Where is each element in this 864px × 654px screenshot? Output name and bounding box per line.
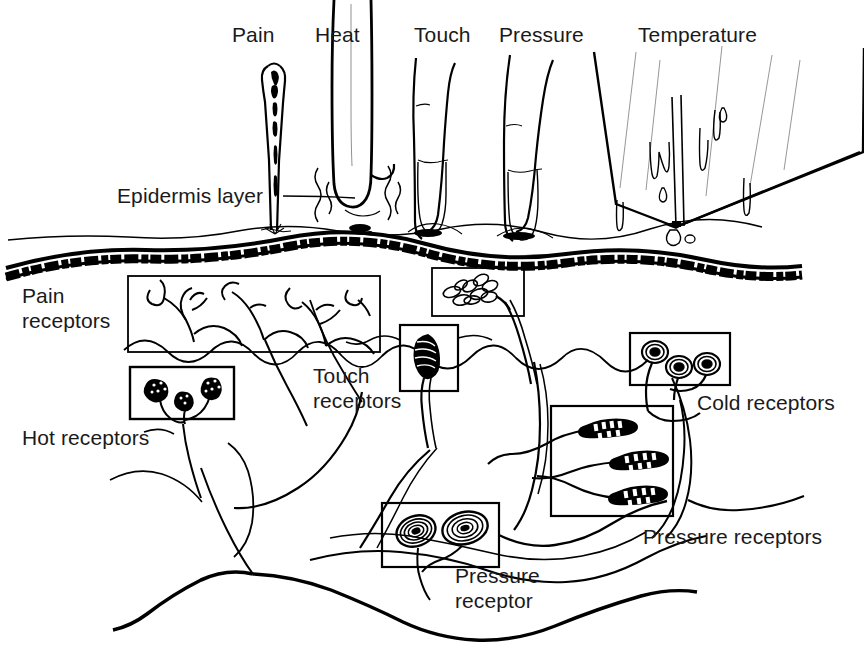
heat-wave-icon [315, 166, 401, 222]
needle-icon [261, 64, 291, 235]
structure-label-hot-receptors: Hot receptors [22, 425, 149, 450]
diagram-illustration [0, 0, 864, 654]
stimulus-label-temperature: Temperature [638, 22, 757, 47]
structure-label-cold-receptors: Cold receptors [697, 390, 835, 415]
skin-receptor-diagram: Pain Heat Touch Pressure Temperature Epi… [0, 0, 864, 654]
epidermis-band [6, 232, 802, 279]
structure-label-touch-receptors: Touch receptors [313, 363, 401, 413]
structure-label-pressure-receptors: Pressure receptors [643, 524, 822, 549]
structure-label-pain-receptors: Pain receptors [22, 283, 110, 333]
stimulus-label-touch: Touch [414, 22, 471, 47]
stimulus-label-pressure: Pressure [499, 22, 584, 47]
finger-touch-icon [408, 58, 462, 239]
stimulus-label-heat: Heat [315, 22, 360, 47]
structure-label-pressure-receptor: Pressure receptor [455, 563, 540, 613]
structure-label-epidermis-layer: Epidermis layer [117, 183, 263, 208]
pressure-receptor-box-right [488, 400, 685, 538]
finger-pressure-icon [497, 55, 553, 241]
stimulus-label-pain: Pain [232, 22, 274, 47]
ice-cube-icon [594, 46, 864, 246]
label-leader-lines [283, 196, 355, 198]
